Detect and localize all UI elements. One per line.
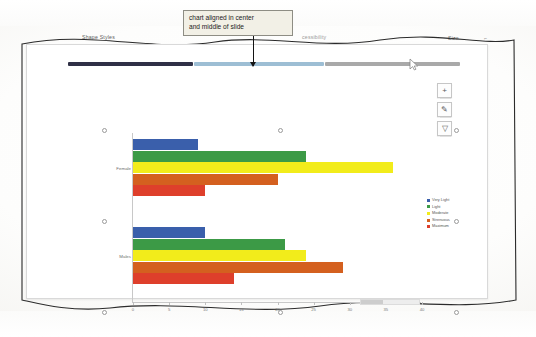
callout-arrowhead-icon bbox=[250, 62, 256, 67]
chart-x-tick-label: 25 bbox=[311, 307, 316, 312]
legend-swatch-icon bbox=[427, 219, 430, 222]
legend-swatch-icon bbox=[427, 205, 430, 208]
legend-label: Strenuous bbox=[432, 217, 450, 224]
chart-legend-item: Light bbox=[427, 204, 459, 211]
alignment-guide-blue bbox=[194, 62, 324, 66]
alignment-guide-dark bbox=[68, 62, 193, 66]
ribbon-group-size: Size bbox=[448, 35, 459, 41]
legend-label: Light bbox=[432, 204, 440, 211]
legend-label: Maximum bbox=[432, 223, 449, 230]
chart-legend-item: Moderate bbox=[427, 210, 459, 217]
chart-bar[interactable] bbox=[133, 139, 198, 150]
legend-swatch-icon bbox=[427, 225, 430, 228]
chart-x-tick bbox=[422, 302, 423, 305]
callout-line-1: chart aligned in center bbox=[189, 14, 287, 23]
chart-x-tick-label: 35 bbox=[384, 307, 389, 312]
chart-x-tick bbox=[133, 302, 134, 305]
dialog-launcher-icon[interactable]: ⌐ bbox=[484, 35, 487, 41]
chart-x-tick bbox=[314, 302, 315, 305]
chart-legend-item: Maximum bbox=[427, 223, 459, 230]
legend-swatch-icon bbox=[427, 212, 430, 215]
selection-handle-w[interactable] bbox=[102, 219, 107, 224]
legend-swatch-icon bbox=[427, 199, 430, 202]
chart-x-tick-label: 10 bbox=[203, 307, 208, 312]
ribbon-group-accessibility: cessibility bbox=[302, 34, 326, 40]
chart-x-tick-label: 0 bbox=[132, 307, 134, 312]
mouse-cursor-icon bbox=[409, 58, 419, 71]
chart-bar[interactable] bbox=[133, 273, 234, 284]
chart-bar[interactable] bbox=[133, 250, 306, 261]
chart-object[interactable]: FemaleMales 0510152025303540 Very LightL… bbox=[105, 131, 457, 313]
selection-handle-ne[interactable] bbox=[454, 128, 459, 133]
chart-x-tick-label: 15 bbox=[239, 307, 244, 312]
chart-styles-icon[interactable]: ✎ bbox=[437, 102, 452, 117]
chart-bar[interactable] bbox=[133, 174, 278, 185]
zoom-slider[interactable] bbox=[360, 299, 420, 305]
chart-elements-icon[interactable]: + bbox=[437, 83, 452, 98]
callout-line-2: and middle of slide bbox=[189, 23, 287, 32]
chart-bar[interactable] bbox=[133, 185, 205, 196]
chart-x-tick-label: 30 bbox=[347, 307, 352, 312]
screenshot-root: Shape Styles cessibility Size ⌐ FemaleMa… bbox=[0, 0, 536, 337]
chart-x-tick bbox=[205, 302, 206, 305]
chart-legend: Very LightLightModerateStrenuousMaximum bbox=[427, 197, 459, 230]
selection-handle-n[interactable] bbox=[278, 128, 283, 133]
chart-category-label: Female bbox=[116, 165, 131, 170]
chart-x-tick bbox=[241, 302, 242, 305]
chart-bar[interactable] bbox=[133, 162, 393, 173]
chart-bar[interactable] bbox=[133, 151, 306, 162]
slide-canvas[interactable]: FemaleMales 0510152025303540 Very LightL… bbox=[26, 44, 488, 299]
chart-bar[interactable] bbox=[133, 262, 343, 273]
chart-legend-item: Very Light bbox=[427, 197, 459, 204]
chart-x-tick bbox=[350, 302, 351, 305]
chart-x-tick bbox=[169, 302, 170, 305]
chart-x-tick bbox=[278, 302, 279, 305]
legend-label: Very Light bbox=[432, 197, 449, 204]
selection-handle-sw[interactable] bbox=[102, 310, 107, 315]
chart-x-tick-label: 40 bbox=[420, 307, 425, 312]
legend-label: Moderate bbox=[432, 210, 448, 217]
chart-x-tick-label: 5 bbox=[168, 307, 170, 312]
selection-handle-nw[interactable] bbox=[102, 128, 107, 133]
chart-side-buttons: +✎▽ bbox=[437, 83, 452, 140]
chart-bar[interactable] bbox=[133, 239, 285, 250]
selection-handle-s[interactable] bbox=[278, 310, 283, 315]
selection-handle-e[interactable] bbox=[454, 219, 459, 224]
chart-bar[interactable] bbox=[133, 227, 205, 238]
annotation-callout: chart aligned in center and middle of sl… bbox=[183, 10, 293, 36]
ribbon-group-shape-styles: Shape Styles bbox=[82, 34, 115, 40]
chart-category-label: Males bbox=[119, 253, 131, 258]
chart-filters-icon[interactable]: ▽ bbox=[437, 121, 452, 136]
zoom-slider-fill bbox=[361, 300, 383, 304]
selection-handle-se[interactable] bbox=[454, 310, 459, 315]
alignment-guide-gray bbox=[325, 62, 460, 66]
